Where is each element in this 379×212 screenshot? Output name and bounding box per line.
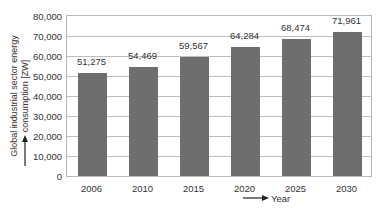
value-label: 59,567 bbox=[169, 40, 219, 51]
x-axis-label: Year bbox=[271, 193, 290, 204]
bar-2020 bbox=[231, 47, 260, 176]
y-tick-label: 70,000 bbox=[0, 31, 62, 42]
value-label: 64,284 bbox=[220, 30, 270, 41]
value-label: 51,275 bbox=[67, 56, 117, 67]
bar-2015 bbox=[180, 57, 209, 176]
y-tick-label: 50,000 bbox=[0, 71, 62, 82]
y-tick-label: 60,000 bbox=[0, 51, 62, 62]
value-label: 71,961 bbox=[322, 15, 372, 26]
y-tick-label: 80,000 bbox=[0, 11, 62, 22]
x-tick-label: 2020 bbox=[225, 183, 265, 194]
x-tick-label: 2030 bbox=[327, 183, 367, 194]
bar-2030 bbox=[333, 32, 362, 176]
gridline bbox=[67, 116, 371, 117]
y-tick-label: 0 bbox=[0, 171, 62, 182]
gridline bbox=[67, 156, 371, 157]
bar-2025 bbox=[282, 39, 311, 176]
x-tick-label: 2015 bbox=[174, 183, 214, 194]
x-tick-label: 2010 bbox=[123, 183, 163, 194]
gridline bbox=[67, 136, 371, 137]
value-label: 54,469 bbox=[118, 50, 168, 61]
gridline bbox=[67, 96, 371, 97]
y-tick-label: 40,000 bbox=[0, 91, 62, 102]
y-tick-label: 30,000 bbox=[0, 111, 62, 122]
bar-2006 bbox=[78, 73, 107, 176]
x-tick-label: 2006 bbox=[72, 183, 112, 194]
value-label: 68,474 bbox=[271, 22, 321, 33]
x-axis-arrow-icon bbox=[243, 194, 269, 202]
gridline bbox=[67, 76, 371, 77]
y-tick-label: 20,000 bbox=[0, 131, 62, 142]
bar-2010 bbox=[129, 67, 158, 176]
y-tick-label: 10,000 bbox=[0, 151, 62, 162]
